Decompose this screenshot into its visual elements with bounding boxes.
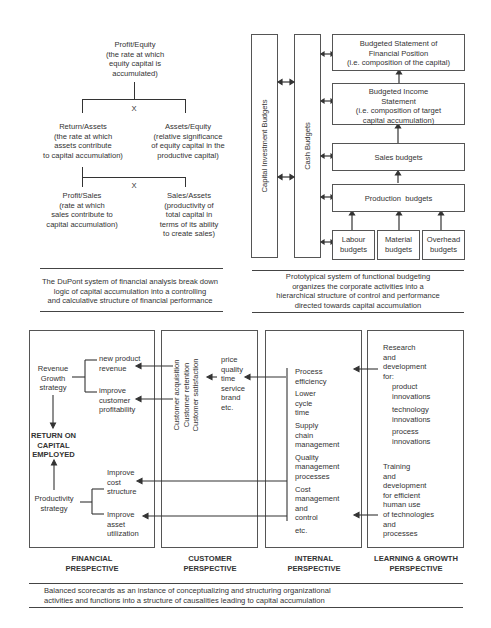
text-line: CUSTOMER [162,554,258,564]
text-line: FINANCIAL [46,554,138,564]
customer-perspective-label: CUSTOMER PERSPECTIVE [162,554,258,573]
learning-perspective-label: LEARNING & GROWTH PERSPECTIVE [362,554,470,573]
text-line: INTERNAL [266,554,362,564]
text-line: PERSPECTIVE [266,564,362,574]
caption-line: activities and functions into a structur… [44,596,331,606]
scorecard-arrows [0,0,491,628]
divider [29,583,463,584]
caption-line: Balanced scorecards as an instance of co… [44,586,331,596]
text-line: PERSPECTIVE [162,564,258,574]
internal-perspective-label: INTERNAL PERSPECTIVE [266,554,362,573]
text-line: PERSPECTIVE [362,564,470,574]
text-line: PRESPECTIVE [46,564,138,574]
financial-perspective-label: FINANCIAL PRESPECTIVE [46,554,138,573]
scorecard-caption: Balanced scorecards as an instance of co… [44,586,331,605]
text-line: LEARNING & GROWTH [362,554,470,564]
divider [29,607,463,608]
